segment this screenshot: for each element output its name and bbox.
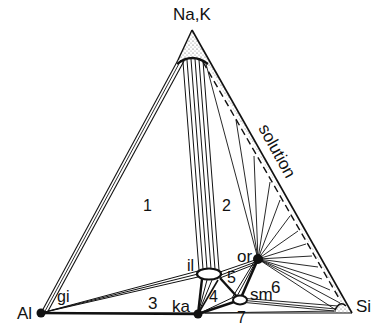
illite-point [197, 269, 221, 280]
illite-tie-lines [183, 59, 219, 270]
phase-label-il: il [187, 257, 194, 274]
vertex-label-right: Si [356, 297, 371, 316]
region-label-6: 6 [271, 278, 280, 297]
phase-label-ka: ka [172, 297, 191, 316]
ternary-phase-diagram: Na,K Al Si gi ka il or sm solution 1 2 3… [0, 0, 387, 334]
orthoclase-point [253, 254, 263, 264]
region-label-1: 1 [143, 197, 152, 214]
vertex-label-left: Al [17, 304, 32, 323]
region-label-4: 4 [209, 288, 218, 305]
phase-label-or: or [237, 247, 252, 266]
phase-label-sm: sm [250, 285, 273, 304]
phase-label-gi: gi [57, 288, 69, 305]
region-label-5: 5 [227, 269, 236, 286]
region-label-7: 7 [237, 309, 246, 326]
region-label-2: 2 [222, 197, 231, 214]
kaolinite-point [194, 310, 203, 319]
gibbsite-point [37, 309, 46, 318]
vertex-label-top: Na,K [173, 5, 211, 24]
region-label-3: 3 [148, 294, 157, 313]
smectite-point [233, 296, 247, 305]
